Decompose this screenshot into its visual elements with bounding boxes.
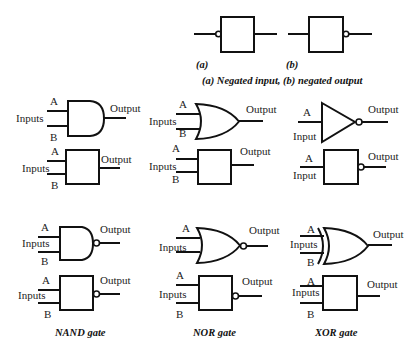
nand-label-output: Output [100,223,131,235]
or-label-a: A [179,98,187,110]
xor-rect-label-inputs: Inputs [292,286,320,298]
and-label-b: B [50,131,57,143]
nand-rect-label-a: A [42,274,50,286]
label-b: (b) [286,59,298,71]
nand-caption: NAND gate [54,327,106,338]
and-rect-label-output: Output [101,153,132,165]
nor-rect-label-inputs: Inputs [159,288,187,300]
or-label-b: B [179,127,186,139]
xor-label-b: B [307,256,314,268]
and-label-a: A [50,95,58,107]
or-rect-label-a: A [172,142,180,154]
xor-label-inputs: Inputs [290,238,318,250]
not-label-input: Input [293,130,316,142]
not-rect-label-input: Input [293,169,316,181]
not-rect-label-output: Output [368,150,399,162]
logic-gates-diagram: (a) (b) (a) Negated input, (b) negated o… [0,0,415,356]
and-rect-label-b: B [51,179,58,191]
xor-label-output: Output [373,228,404,240]
or-rect-label-b: B [172,173,179,185]
nand-label-b: B [41,255,48,267]
top-caption: (a) Negated input, (b) negated output [202,75,363,87]
nand-rect-label-inputs: Inputs [18,289,46,301]
not-label-output: Output [368,103,399,115]
nand-label-a: A [41,221,49,233]
nor-label-a: A [182,222,190,234]
xor-label-a: A [307,223,315,235]
nor-rect-label-a: A [176,269,184,281]
nand-rect-label-output: Output [100,274,131,286]
nor-label-inputs: Inputs [159,241,187,253]
or-rect-label-output: Output [240,145,271,157]
nor-caption: NOR gate [192,327,236,338]
or-label-output: Output [246,103,277,115]
and-rect-label-a: A [51,145,59,157]
not-label-a: A [303,106,311,118]
label-a: (a) [196,59,208,71]
nor-rect-label-output: Output [242,275,273,287]
negated-output-symbol [288,17,372,52]
xor-caption: XOR gate [314,327,358,338]
or-rect-label-inputs: Inputs [149,160,177,172]
negated-input-symbol [194,17,277,52]
not-rect-label-a: A [305,152,313,164]
nor-rect-label-b: B [176,308,183,320]
and-label-output: Output [110,102,141,114]
nand-label-inputs: Inputs [22,237,50,249]
and-label-inputs: Inputs [16,112,44,124]
and-rect-label-inputs: Inputs [22,162,50,174]
nor-label-output: Output [249,224,280,236]
or-label-inputs: Inputs [149,115,177,127]
nand-rect-label-b: B [44,308,51,320]
xor-rect-label-output: Output [367,278,398,290]
xor-rect-label-b: B [307,308,314,320]
